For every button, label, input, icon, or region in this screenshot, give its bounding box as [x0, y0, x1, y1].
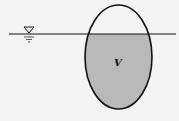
diagram-canvas: V — [0, 0, 179, 121]
buoyancy-diagram: V — [0, 0, 179, 121]
volume-label: V — [114, 57, 123, 68]
